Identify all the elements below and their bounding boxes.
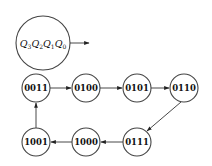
legend-label: Q3Q2Q1Q0 (20, 38, 67, 50)
state-diagram: Q3Q2Q1Q0 0011 0100 0101 0110 0111 1000 (0, 0, 212, 166)
state-0111: 0111 (123, 128, 151, 156)
state-0100: 0100 (72, 74, 100, 102)
state-label: 0111 (125, 137, 149, 147)
edge-0110-0111 (147, 102, 181, 131)
state-1001: 1001 (22, 128, 50, 156)
state-0011: 0011 (22, 74, 50, 102)
edges (36, 88, 181, 142)
state-1000: 1000 (72, 128, 100, 156)
state-label: 0011 (24, 83, 48, 93)
state-label: 0110 (172, 83, 196, 93)
state-label: 1001 (24, 137, 48, 147)
state-0110: 0110 (170, 74, 198, 102)
state-label: 1000 (74, 137, 98, 147)
legend: Q3Q2Q1Q0 (16, 16, 89, 70)
state-label: 0101 (125, 83, 149, 93)
state-label: 0100 (74, 83, 98, 93)
state-0101: 0101 (123, 74, 151, 102)
